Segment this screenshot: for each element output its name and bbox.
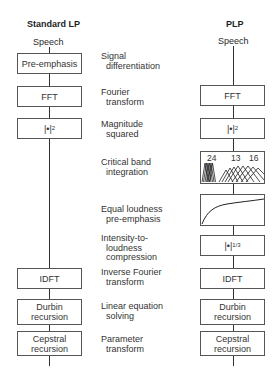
block-label: Pre-emphasis xyxy=(22,59,78,69)
block-label: |•| xyxy=(227,124,235,134)
plp-title: PLP xyxy=(226,19,244,29)
lp-durbin-recursion-block: Durbin recursion xyxy=(17,299,82,325)
plp-fft-block: FFT xyxy=(200,85,265,106)
block-label: FFT xyxy=(224,91,241,101)
desc-linear-equation-solving: Linear equation solving xyxy=(101,302,163,321)
block-label: Cepstral recursion xyxy=(214,334,251,354)
plp-equal-loudness-block xyxy=(200,194,265,226)
block-label: |•| xyxy=(44,124,52,134)
lp-cepstral-recursion-block: Cepstral recursion xyxy=(17,331,82,356)
block-exponent: 2 xyxy=(235,123,238,133)
standard-lp-input-label: Speech xyxy=(33,37,64,47)
block-label: IDFT xyxy=(40,274,60,284)
equal-loudness-curve-icon xyxy=(201,195,264,225)
plp-durbin-recursion-block: Durbin recursion xyxy=(200,299,265,325)
block-label: FFT xyxy=(41,92,58,102)
plp-critical-band-block: 24 13 16 xyxy=(200,151,265,184)
desc-signal-differentiation: Signal differentiation xyxy=(101,52,160,71)
desc-fourier-transform: Fourier transform xyxy=(101,88,144,107)
plp-cube-root-compression-block: |•|1/3 xyxy=(200,235,265,256)
desc-critical-band-integration: Critical band integration xyxy=(101,158,151,177)
lp-idft-block: IDFT xyxy=(17,268,82,289)
block-label: IDFT xyxy=(223,274,243,284)
lp-pre-emphasis-block: Pre-emphasis xyxy=(17,53,82,74)
block-label: Durbin recursion xyxy=(214,302,251,322)
plp-input-label: Speech xyxy=(218,36,249,46)
critical-band-filters-icon xyxy=(201,152,264,183)
plp-idft-block: IDFT xyxy=(200,268,265,289)
plp-cepstral-recursion-block: Cepstral recursion xyxy=(200,331,265,356)
desc-magnitude-squared: Magnitude squared xyxy=(101,120,143,139)
block-exponent: 2 xyxy=(52,123,55,133)
desc-parameter-transform: Parameter transform xyxy=(101,335,144,354)
plp-magnitude-squared-block: |•|2 xyxy=(200,118,265,139)
block-label: Durbin recursion xyxy=(31,302,68,322)
desc-intensity-to-loudness-compression: Intensity-to- loudness compression xyxy=(101,234,157,263)
lp-magnitude-squared-block: |•|2 xyxy=(17,118,82,139)
lp-fft-block: FFT xyxy=(17,86,82,107)
block-label: |•| xyxy=(224,241,232,251)
block-exponent: 1/3 xyxy=(232,240,240,250)
block-label: Cepstral recursion xyxy=(31,334,68,354)
desc-inverse-fourier-transform: Inverse Fourier transform xyxy=(101,268,162,287)
standard-lp-title: Standard LP xyxy=(27,19,80,29)
desc-equal-loudness-pre-emphasis: Equal loudness pre-emphasis xyxy=(101,205,163,224)
